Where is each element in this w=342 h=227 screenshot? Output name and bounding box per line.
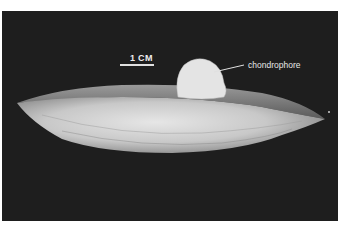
shell-illustration — [2, 11, 338, 221]
scale-bar-label: 1 CM — [130, 53, 153, 63]
chondrophore-structure — [177, 59, 226, 99]
specimen-photograph: 1 CM chondrophore — [2, 11, 338, 221]
chondrophore-label: chondrophore — [248, 60, 300, 70]
scale-bar — [120, 64, 154, 66]
